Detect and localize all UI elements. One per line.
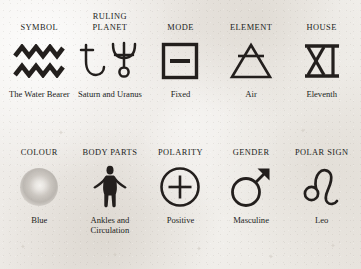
attribute-caption: Eleventh (306, 89, 337, 100)
attribute-card-symbol: SYMBOL The Water Bearer (4, 12, 75, 138)
attribute-caption: Fixed (171, 89, 191, 100)
attribute-header: ELEMENT (230, 12, 272, 33)
attribute-caption: The Water Bearer (9, 89, 70, 100)
aquarius-water-waves-icon (13, 36, 65, 86)
mars-masculine-icon (229, 162, 273, 212)
positive-plus-circle-icon (159, 162, 201, 212)
fixed-mode-square-icon (161, 36, 199, 86)
attribute-card-polar-sign: POLAR SIGN Leo (286, 138, 357, 264)
leo-zodiac-glyph-icon (303, 162, 341, 212)
attribute-grid: SYMBOL The Water Bearer RULING PLANET (0, 0, 361, 269)
attribute-card-ruling-planet: RULING PLANET Saturn and Uranus (75, 12, 146, 138)
human-body-figure-icon (93, 162, 127, 212)
attribute-card-mode: MODE Fixed (145, 12, 216, 138)
attribute-caption: Blue (31, 215, 47, 226)
attribute-card-polarity: POLARITY Positive (145, 138, 216, 264)
attribute-caption: Masculine (233, 215, 269, 226)
attribute-header: POLAR SIGN (295, 138, 349, 159)
attribute-card-gender: GENDER Masculine (216, 138, 287, 264)
attribute-caption: Ankles and Circulation (75, 215, 146, 236)
attribute-card-body-parts: BODY PARTS Ankles and Circulation (75, 138, 146, 264)
attribute-header: BODY PARTS (82, 138, 137, 159)
attribute-header: POLARITY (158, 138, 203, 159)
colour-swatch-icon (20, 162, 58, 212)
saturn-and-uranus-planet-icon (79, 36, 141, 86)
attribute-header: MODE (167, 12, 193, 33)
attribute-caption: Leo (315, 215, 328, 226)
attribute-header: SYMBOL (20, 12, 58, 33)
attribute-header: RULING PLANET (75, 12, 146, 33)
air-element-triangle-icon (229, 36, 273, 86)
attribute-header: COLOUR (21, 138, 58, 159)
attribute-card-colour: COLOUR Blue (4, 138, 75, 264)
attribute-header: HOUSE (307, 12, 337, 33)
attribute-caption: Air (245, 89, 256, 100)
roman-numeral-eleven-icon (303, 36, 341, 86)
attribute-caption: Positive (167, 215, 195, 226)
attribute-caption: Saturn and Uranus (78, 89, 142, 100)
attribute-card-house: HOUSE Eleventh (286, 12, 357, 138)
attribute-card-element: ELEMENT Air (216, 12, 287, 138)
attribute-header: GENDER (233, 138, 270, 159)
